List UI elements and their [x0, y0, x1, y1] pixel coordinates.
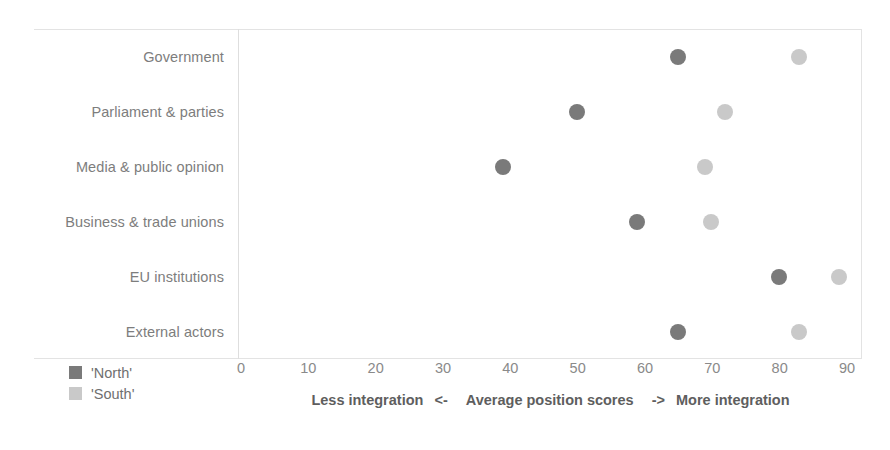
- data-point: [495, 159, 511, 175]
- data-point: [791, 324, 807, 340]
- category-label: Media & public opinion: [76, 159, 224, 175]
- x-tick-label: 10: [300, 360, 316, 376]
- data-point: [569, 104, 585, 120]
- caption-left-text: Less integration: [311, 392, 423, 408]
- x-tick-label: 40: [502, 360, 518, 376]
- x-tick-label: 50: [570, 360, 586, 376]
- x-tick-label: 80: [772, 360, 788, 376]
- plot-area: [239, 29, 862, 359]
- category-label: Government: [143, 49, 224, 65]
- caption-right-text: More integration: [676, 392, 790, 408]
- x-axis-caption: Less integration <- Average position sco…: [239, 392, 862, 408]
- data-point: [670, 324, 686, 340]
- category-axis-labels: GovernmentParliament & partiesMedia & pu…: [34, 29, 232, 359]
- x-tick-label: 20: [368, 360, 384, 376]
- data-point: [670, 49, 686, 65]
- legend-swatch-icon: [69, 366, 82, 379]
- data-point: [717, 104, 733, 120]
- x-tick-label: 90: [839, 360, 855, 376]
- data-point: [791, 49, 807, 65]
- category-label: Parliament & parties: [91, 104, 224, 120]
- category-label: External actors: [126, 324, 224, 340]
- data-point: [831, 269, 847, 285]
- caption-right-arrow-icon: ->: [652, 392, 665, 408]
- data-point: [697, 159, 713, 175]
- category-label: Business & trade unions: [65, 214, 224, 230]
- dot-plot-figure: GovernmentParliament & partiesMedia & pu…: [0, 0, 890, 450]
- legend-item[interactable]: 'South': [52, 383, 232, 404]
- data-point: [629, 214, 645, 230]
- legend-item-label: 'South': [91, 386, 134, 402]
- x-axis-tick-labels: 0102030405060708090: [239, 360, 889, 386]
- category-label: EU institutions: [130, 269, 224, 285]
- caption-center-text: Average position scores: [466, 392, 634, 408]
- legend-item[interactable]: 'North': [52, 362, 232, 383]
- x-tick-label: 70: [704, 360, 720, 376]
- caption-left-arrow-icon: <-: [434, 392, 447, 408]
- x-tick-label: 30: [435, 360, 451, 376]
- x-tick-label: 60: [637, 360, 653, 376]
- x-tick-label: 0: [237, 360, 245, 376]
- data-point: [703, 214, 719, 230]
- legend-swatch-icon: [69, 387, 82, 400]
- data-point: [771, 269, 787, 285]
- legend-item-label: 'North': [91, 365, 132, 381]
- legend: 'North''South': [52, 362, 232, 404]
